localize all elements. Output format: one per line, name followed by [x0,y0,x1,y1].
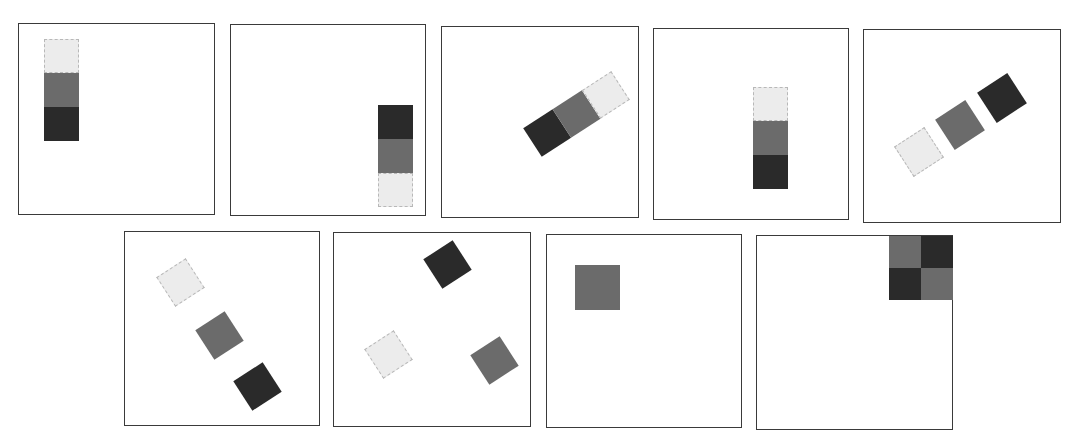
panel-8 [546,234,742,428]
mid-block [470,336,518,384]
panel-5 [863,29,1061,223]
mid-block [575,265,620,310]
light-block [364,330,412,378]
caption-fragment [600,0,1070,5]
dark-block [753,155,788,189]
panel-6 [124,231,320,426]
panel-7 [333,232,531,427]
dark-block [921,236,953,268]
panel-2 [230,24,426,216]
mid-block [195,311,243,359]
light-block [44,39,79,73]
mid-block [753,121,788,155]
panel-9 [756,235,953,430]
light-block [378,173,413,207]
mid-block [378,139,413,173]
light-block [753,87,788,121]
mid-block [44,73,79,107]
panel-3 [441,26,639,218]
dark-block [889,268,921,300]
dark-block [977,73,1027,123]
light-block [156,258,204,306]
mid-block [935,100,985,150]
dark-block [378,105,413,139]
panel-4 [653,28,849,220]
dark-block [233,362,281,410]
dark-block [423,240,471,288]
mid-block [921,268,953,300]
rotated-stack [523,71,630,157]
light-block [894,127,944,177]
panel-1 [18,23,215,215]
dark-block [44,107,79,141]
mid-block [889,236,921,268]
